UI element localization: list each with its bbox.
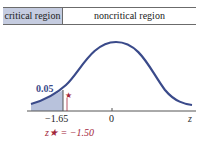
normal-curve-plot: ★ [0, 0, 204, 145]
star-icon: ★ [65, 91, 72, 100]
axis-label: z [188, 113, 192, 124]
critical-value-label: −1.65 [45, 113, 68, 124]
test-statistic-label: z★ = −1.50 [45, 127, 94, 138]
tail-area-label: 0.05 [36, 83, 54, 94]
zero-label: 0 [109, 113, 114, 124]
